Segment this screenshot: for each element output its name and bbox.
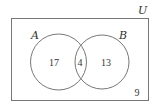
set-b-label: B [118, 29, 127, 42]
outside-count: 9 [135, 87, 140, 98]
set-b-only-count: 13 [101, 57, 111, 68]
set-a-label: A [30, 29, 39, 42]
set-a-only-count: 17 [49, 57, 59, 68]
venn-diagram: U A B 17 4 13 9 [0, 0, 156, 104]
universe-label: U [138, 4, 148, 17]
intersection-count: 4 [78, 57, 83, 68]
